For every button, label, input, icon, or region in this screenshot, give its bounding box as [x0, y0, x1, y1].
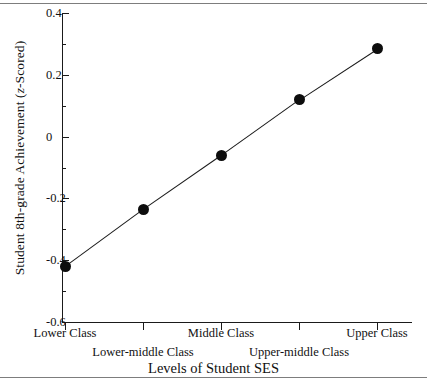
x-tick-label: Lower Class [34, 326, 97, 341]
y-tick-label: 0.4 [46, 6, 54, 21]
bottom-divider-rule [0, 377, 427, 378]
line-segment [143, 155, 222, 210]
data-point-marker[interactable] [138, 204, 149, 215]
data-series-line [62, 13, 412, 322]
data-point-marker[interactable] [216, 150, 227, 161]
y-tick-label: -0.4 [46, 253, 54, 268]
x-tick [143, 322, 144, 330]
x-axis-title: Levels of Student SES [0, 360, 427, 377]
line-segment [299, 49, 378, 101]
x-tick-label: Lower-middle Class [92, 345, 193, 360]
data-point-marker[interactable] [294, 94, 305, 105]
line-segment [65, 209, 144, 267]
line-segment [221, 100, 300, 156]
y-axis-title-prefix: Student 8th-grade Achievement ( [12, 93, 27, 275]
x-tick-label: Upper-middle Class [249, 345, 349, 360]
x-tick-label: Middle Class [188, 326, 254, 341]
data-point-marker[interactable] [372, 43, 383, 54]
y-axis-title-suffix: -Scored) [12, 41, 27, 88]
x-tick-label: Upper Class [346, 326, 407, 341]
y-tick-label: 0 [46, 129, 54, 144]
top-divider-rule [0, 3, 427, 4]
x-tick [299, 322, 300, 330]
figure-container: Student 8th-grade Achievement (z-Scored)… [0, 0, 427, 381]
plot-area: 0.40.20-0.2-0.4-0.6 [62, 13, 412, 322]
y-tick-label: 0.2 [46, 67, 54, 82]
x-axis-line [62, 322, 412, 323]
y-tick-label: -0.2 [46, 191, 54, 206]
y-axis-title-italic-z: z [12, 88, 27, 93]
data-point-marker[interactable] [60, 261, 71, 272]
y-axis-title: Student 8th-grade Achievement (z-Scored) [12, 0, 28, 318]
